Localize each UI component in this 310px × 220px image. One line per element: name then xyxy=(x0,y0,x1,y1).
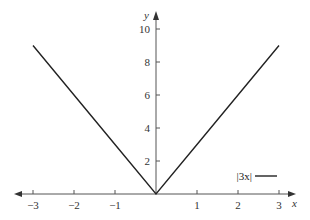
y-tick-label: 10 xyxy=(139,23,151,35)
x-axis-left-arrow-icon xyxy=(14,191,22,197)
axes: −3−2−1123246810 xyxy=(14,11,296,211)
y-tick-label: 8 xyxy=(145,56,151,68)
x-tick-label: 3 xyxy=(276,199,282,211)
y-tick-label: 2 xyxy=(145,155,151,167)
x-tick-label: 1 xyxy=(194,199,200,211)
x-axis-label: x xyxy=(291,197,297,209)
x-tick-label: −2 xyxy=(68,199,80,211)
legend: |3x| xyxy=(237,170,277,182)
y-axis-label: y xyxy=(143,9,149,21)
x-tick-label: −1 xyxy=(109,199,121,211)
y-axis-up-arrow-icon xyxy=(153,11,159,20)
x-tick-label: 2 xyxy=(235,199,241,211)
y-tick-label: 6 xyxy=(145,89,151,101)
y-tick-label: 4 xyxy=(145,122,151,134)
legend-label: |3x| xyxy=(237,170,252,182)
chart: −3−2−1123246810 |3x| x y xyxy=(0,0,310,220)
x-tick-label: −3 xyxy=(27,199,39,211)
